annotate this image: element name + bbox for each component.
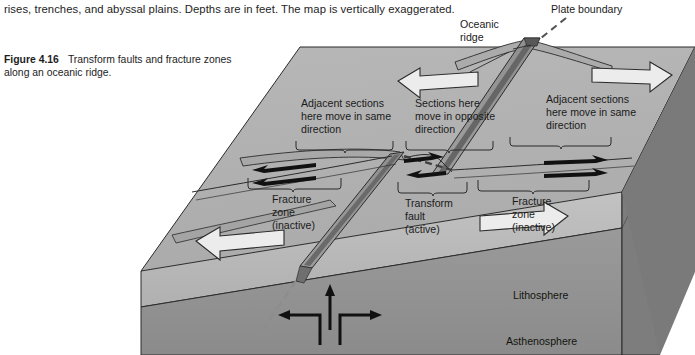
plate-boundary-dashed-line bbox=[536, 18, 566, 42]
label-center-opposite-line3: direction bbox=[415, 123, 455, 135]
transform-fault-block-diagram: Plate boundary Oceanic ridge Adjacent se… bbox=[0, 0, 695, 355]
label-fracture-zone-right-line2: zone bbox=[512, 208, 535, 220]
label-center-opposite-line2: move in opposite bbox=[415, 110, 495, 122]
label-left-adjacent-line1: Adjacent sections bbox=[301, 97, 384, 109]
label-lithosphere: Lithosphere bbox=[513, 289, 568, 301]
label-fracture-zone-left-line1: Fracture bbox=[272, 193, 312, 205]
label-transform-fault-line2: fault bbox=[405, 210, 425, 222]
label-plate-boundary: Plate boundary bbox=[551, 3, 623, 15]
label-transform-fault-line1: Transform bbox=[405, 197, 453, 209]
label-fracture-zone-left-line3: (inactive) bbox=[272, 219, 315, 231]
label-right-adjacent-line1: Adjacent sections bbox=[546, 93, 629, 105]
figure-page: rises, trenches, and abyssal plains. Dep… bbox=[0, 0, 695, 355]
label-transform-fault-line3: (active) bbox=[405, 223, 440, 235]
label-fracture-zone-right-line3: (inactive) bbox=[512, 221, 555, 233]
label-oceanic-ridge-line2: ridge bbox=[460, 31, 484, 43]
label-left-adjacent-line3: direction bbox=[301, 123, 341, 135]
label-right-adjacent-line3: direction bbox=[546, 119, 586, 131]
label-fracture-zone-right-line1: Fracture bbox=[512, 195, 552, 207]
label-fracture-zone-left-line2: zone bbox=[272, 206, 295, 218]
label-oceanic-ridge-line1: Oceanic bbox=[460, 18, 500, 30]
label-asthenosphere: Asthenosphere bbox=[506, 335, 577, 347]
label-left-adjacent-line2: here move in same bbox=[301, 110, 391, 122]
label-center-opposite-line1: Sections here bbox=[415, 97, 480, 109]
label-right-adjacent-line2: here move in same bbox=[546, 106, 636, 118]
